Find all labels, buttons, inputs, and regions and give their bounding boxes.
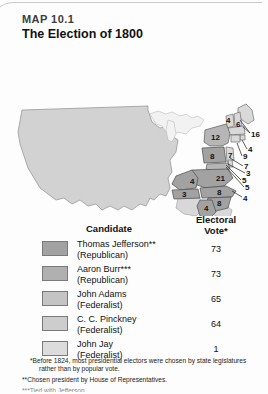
map-label-kentucky: 4 [190,177,195,186]
legend-candidate-name: John Jay [77,339,113,350]
legend-electoral-votes: 1 [186,344,246,354]
map-label-pennsylvania: 8 [210,152,215,161]
map-label-virginia: 21 [216,174,225,183]
page-title: The Election of 1800 [22,27,260,42]
map-label-new-hampshire: 6 [236,120,241,129]
column-header-ev-line1: Electoral [196,214,236,225]
state-connecticut [231,135,240,142]
legend-candidate-name: John Adams [77,289,127,300]
legend-electoral-votes: 73 [186,244,246,254]
column-header-electoral-vote: Electoral Vote* [186,214,246,236]
legend-electoral-votes: 65 [186,294,246,304]
map-figure-page: MAP 10.1 The Election of 1800 [0,0,268,394]
legend-candidate-party: (Republican) [77,250,128,261]
legend-table: Candidate Electoral Vote* Thomas Jeffers… [0,214,268,363]
legend-swatch-pinckney [42,316,68,331]
legend-candidate-party: (Federalist) [77,300,123,311]
footnote-1-text: Before 1824, most presidential electors … [33,357,247,364]
legend-row: Thomas Jefferson** (Republican) 73 [0,238,268,263]
map-number-label: MAP 10.1 [22,13,260,26]
legend-candidate-name: C. C. Pinckney [77,314,137,325]
page-border-rule [22,2,262,3]
footnotes: *Before 1824, most presidential electors… [0,357,268,392]
legend-electoral-votes: 73 [186,269,246,279]
map-label-delaware: 3 [246,169,251,178]
footnote-2: **Chosen president by House of Represent… [22,376,268,384]
state-rhode-island [240,135,245,140]
map-label-new-york: 12 [211,133,220,142]
map-label-georgia: 4 [204,204,209,213]
figure-header: MAP 10.1 The Election of 1800 [22,13,260,42]
legend-swatch-burr [42,266,68,281]
legend-row: John Adams (Federalist) 65 [0,288,268,313]
map-label-north-carolina: 8 [217,188,222,197]
column-header-candidate: Candidate [86,223,132,234]
legend-candidate-name: Thomas Jefferson** [77,239,156,250]
footnote-3: ***Tied with Jefferson. [22,387,268,392]
legend-swatch-adams [42,291,68,306]
footnote-1-continuation: rather than by popular vote. [39,365,254,373]
map-label-tennessee: 3 [182,190,187,199]
legend-row: C. C. Pinckney (Federalist) 64 [0,313,268,338]
map-label-rhode-island: 4 [248,145,253,154]
map-label-vermont: 4 [226,116,231,125]
legend-row: Aaron Burr*** (Republican) 73 [0,263,268,288]
map-label-maryland-2: 5 [245,183,250,192]
state-west-territory [18,106,178,210]
legend-swatch-jay [42,341,68,356]
legend-candidate-name: Aaron Burr*** [77,264,131,275]
footnote-3-text: Tied with Jefferson. [30,387,87,392]
footnote-2-text: Chosen president by House of Representat… [27,376,167,383]
map-label-connecticut: 9 [243,152,248,161]
election-map: 4 6 16 12 4 9 8 7 7 3 5 5 21 4 3 8 8 4 4 [0,48,268,216]
column-header-ev-line2: Vote* [204,225,228,236]
footnote-1: *Before 1824, most presidential electors… [30,357,254,373]
footnote-3-marker: *** [22,387,30,392]
legend-electoral-votes: 64 [186,319,246,329]
legend-swatch-jefferson [42,241,68,256]
legend-candidate-party: (Republican) [77,275,128,286]
map-label-new-jersey: 7 [228,151,233,160]
map-label-massachusetts: 16 [251,130,260,139]
legend-header-row: Candidate Electoral Vote* [0,214,268,238]
legend-candidate-party: (Federalist) [77,325,123,336]
map-label-nc-leader: 4 [243,194,248,203]
map-label-south-carolina: 8 [217,199,222,208]
